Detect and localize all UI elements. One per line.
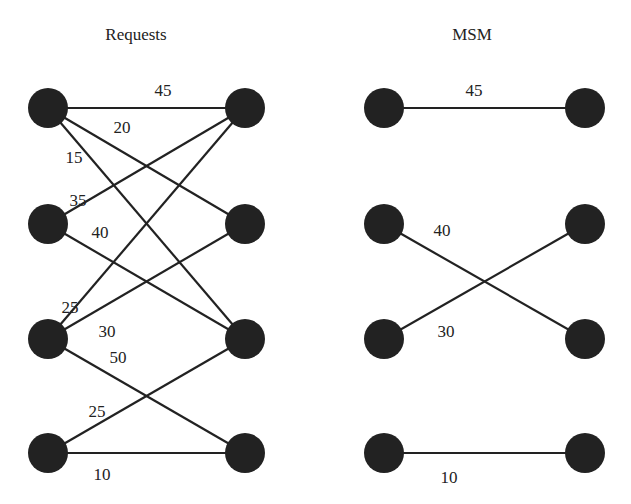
edge-weight-label: 10	[94, 465, 111, 484]
edge-weight-label: 20	[114, 118, 131, 137]
output-node	[565, 433, 605, 473]
output-node	[225, 88, 265, 128]
bipartite-matching-figure: Requests45201535402530502510MSM45403010	[0, 0, 631, 504]
edge-weight-label: 45	[155, 81, 172, 100]
graph-requests: Requests45201535402530502510	[28, 25, 265, 484]
edge-weight-label: 30	[438, 322, 455, 341]
input-node	[364, 319, 404, 359]
input-node	[28, 433, 68, 473]
output-node	[565, 88, 605, 128]
input-node	[364, 433, 404, 473]
edge-weight-label: 25	[89, 402, 106, 421]
input-node	[364, 204, 404, 244]
input-node	[28, 204, 68, 244]
edge-weight-label: 50	[110, 348, 127, 367]
edge-weight-label: 30	[99, 322, 116, 341]
edge-weight-label: 40	[434, 221, 451, 240]
edge-weight-label: 40	[92, 223, 109, 242]
edge-weight-label: 25	[62, 298, 79, 317]
output-node	[565, 319, 605, 359]
input-node	[28, 88, 68, 128]
edge-weight-label: 35	[70, 191, 87, 210]
edge-weight-label: 45	[466, 81, 483, 100]
output-node	[565, 204, 605, 244]
graph-title: Requests	[105, 25, 166, 44]
input-node	[364, 88, 404, 128]
edge-weight-label: 15	[66, 148, 83, 167]
edge-weight-label: 10	[441, 468, 458, 487]
graph-msm: MSM45403010	[364, 25, 605, 487]
output-node	[225, 433, 265, 473]
output-node	[225, 204, 265, 244]
output-node	[225, 319, 265, 359]
input-node	[28, 319, 68, 359]
graph-title: MSM	[452, 25, 492, 44]
diagram-canvas: Requests45201535402530502510MSM45403010	[0, 0, 631, 504]
